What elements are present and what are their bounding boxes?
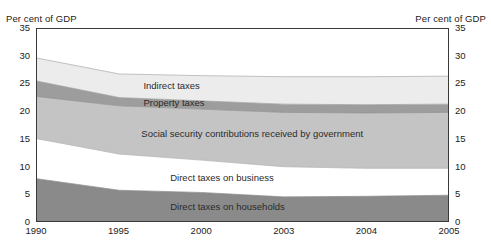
y-tick-left-35: 35 [8, 23, 30, 33]
y-tick-right-25: 25 [455, 78, 477, 88]
series-label-social-security: Social security contributions received b… [141, 129, 363, 139]
x-tick-1995: 1995 [99, 226, 139, 236]
y-tick-right-5: 5 [455, 189, 477, 199]
x-tick-2004: 2004 [346, 226, 386, 236]
series-label-direct-households: Direct taxes on households [170, 202, 285, 212]
series-label-direct-business: Direct taxes on business [170, 173, 274, 183]
x-tick-2000: 2000 [181, 226, 221, 236]
x-tick-2005: 2005 [429, 226, 469, 236]
y-tick-right-15: 15 [455, 134, 477, 144]
y-tick-right-20: 20 [455, 106, 477, 116]
y-tick-left-10: 10 [8, 162, 30, 172]
y-tick-left-15: 15 [8, 134, 30, 144]
y-tick-right-35: 35 [455, 23, 477, 33]
x-tick-1990: 1990 [16, 226, 56, 236]
y-tick-left-30: 30 [8, 51, 30, 61]
plot-area [36, 28, 449, 222]
y-tick-left-25: 25 [8, 78, 30, 88]
x-tick-2003: 2003 [264, 226, 304, 236]
y-tick-right-10: 10 [455, 162, 477, 172]
tax-revenue-stacked-area-chart: Per cent of GDP Per cent of GDP 35 30 25… [0, 0, 491, 246]
y-tick-right-30: 30 [455, 51, 477, 61]
y-tick-left-5: 5 [8, 189, 30, 199]
area-series-svg [37, 29, 448, 221]
series-label-property-taxes: Property taxes [143, 98, 204, 108]
series-label-indirect-taxes: Indirect taxes [143, 81, 200, 91]
y-tick-left-20: 20 [8, 106, 30, 116]
